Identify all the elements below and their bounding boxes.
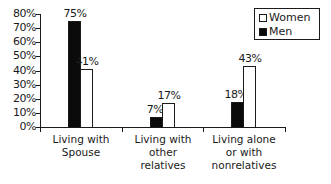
y-tick-label: 70%: [2, 22, 36, 34]
bar-women: [80, 69, 93, 128]
y-tick-label: 60%: [2, 36, 36, 48]
data-label: 17%: [154, 90, 184, 102]
data-label: 75%: [60, 8, 90, 20]
bar-chart: Women Men 0%10%20%30%40%50%60%70%80%75%4…: [0, 0, 331, 184]
y-tick: [36, 71, 40, 72]
legend: Women Men: [254, 8, 320, 40]
legend-item-women: Women: [259, 11, 310, 24]
y-tick-label: 30%: [2, 79, 36, 91]
bar-women: [243, 66, 256, 128]
legend-label-women: Women: [269, 11, 310, 24]
y-tick-label: 0%: [2, 121, 36, 133]
y-tick: [36, 42, 40, 43]
x-tick: [40, 128, 41, 132]
y-axis: [40, 14, 41, 128]
y-tick: [36, 14, 40, 15]
x-tick: [203, 128, 204, 132]
category-label: Living withotherrelatives: [118, 133, 208, 172]
y-tick: [36, 85, 40, 86]
y-tick: [36, 56, 40, 57]
y-tick: [36, 99, 40, 100]
y-tick: [36, 28, 40, 29]
bar-women: [162, 103, 175, 128]
category-label: Living withSpouse: [36, 133, 126, 159]
legend-item-men: Men: [259, 25, 292, 38]
y-tick-label: 40%: [2, 65, 36, 77]
y-tick-label: 50%: [2, 50, 36, 62]
data-label: 43%: [235, 53, 265, 65]
y-tick: [36, 113, 40, 114]
x-tick: [285, 128, 286, 132]
men-swatch-icon: [259, 28, 267, 36]
legend-label-men: Men: [269, 25, 292, 38]
x-tick: [122, 128, 123, 132]
y-tick-label: 80%: [2, 8, 36, 20]
data-label: 41%: [72, 56, 102, 68]
y-tick-label: 10%: [2, 107, 36, 119]
women-swatch-icon: [259, 14, 267, 22]
y-tick-label: 20%: [2, 93, 36, 105]
category-label: Living aloneor withnonrelatives: [199, 133, 289, 172]
